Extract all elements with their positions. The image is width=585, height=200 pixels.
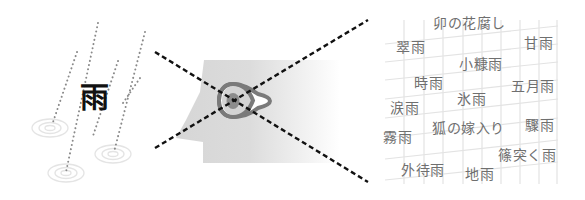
- rain-kanji-label: 雨: [80, 84, 109, 113]
- rain-word: 驟雨: [525, 118, 554, 132]
- rain-word: 翠雨: [396, 40, 425, 54]
- rain-word: 外待雨: [401, 163, 445, 177]
- head-profile-icon: [176, 60, 340, 163]
- rain-concept-diagram: 雨 卯の花腐し 翠雨 甘雨 小糠雨 時雨 五月雨 氷雨 涙雨 驟雨 狐の嫁入り …: [0, 0, 585, 200]
- ripple-icon: [32, 119, 68, 137]
- ripple-icon: [95, 145, 131, 163]
- rain-word: 甘雨: [524, 36, 553, 50]
- rain-word: 涙雨: [390, 101, 419, 115]
- rain-word: 卯の花腐し: [433, 16, 506, 30]
- rain-word: 篠突く雨: [498, 148, 556, 162]
- rain-streak: [121, 78, 140, 106]
- rain-word: 氷雨: [457, 92, 486, 106]
- rain-word: 霧雨: [383, 130, 412, 144]
- ripple-icon: [48, 164, 84, 182]
- rain-streak: [52, 52, 77, 125]
- ripple-icons: [32, 119, 131, 182]
- rain-word: 五月雨: [511, 79, 555, 93]
- rain-word: 小糠雨: [459, 57, 503, 71]
- rain-word: 時雨: [414, 76, 443, 90]
- rain-word: 地雨: [465, 167, 494, 181]
- rain-word: 狐の嫁入り: [432, 121, 505, 135]
